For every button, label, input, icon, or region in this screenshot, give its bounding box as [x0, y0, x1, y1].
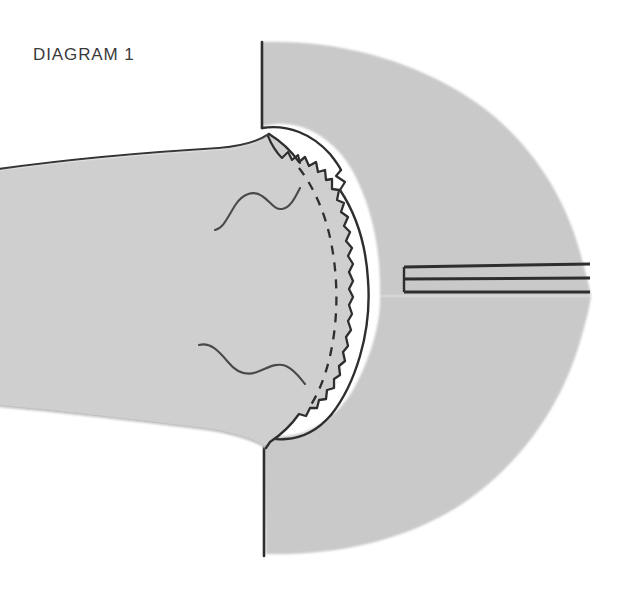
figure-caption: DIAGRAM 1 — [33, 45, 135, 64]
central-dome — [0, 134, 353, 448]
diagram-figure: DIAGRAM 1 — [0, 0, 635, 596]
diagram-canvas: DIAGRAM 1 — [0, 0, 635, 596]
